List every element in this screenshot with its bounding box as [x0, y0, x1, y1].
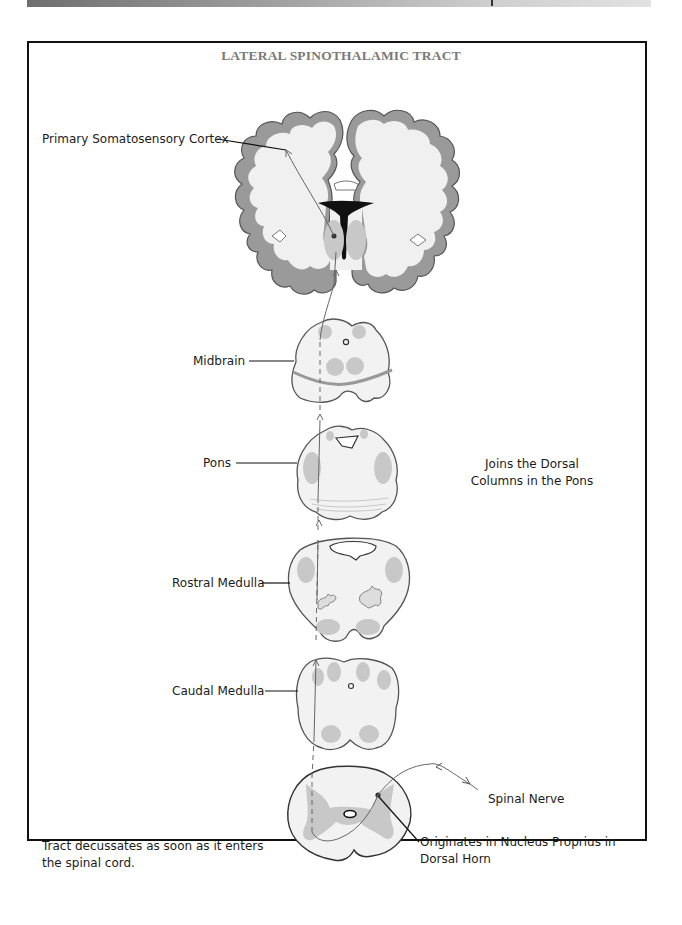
label-spinal-nerve: Spinal Nerve	[488, 792, 564, 807]
label-pons: Pons	[203, 456, 231, 471]
rostral-medulla-section	[288, 538, 409, 641]
cerebrum-section	[235, 110, 460, 294]
decussation-note-line-1: Tract decussates as soon as it enters	[42, 838, 264, 855]
pons-note: Joins the Dorsal Columns in the Pons	[464, 456, 600, 490]
spinal-cord-section	[288, 766, 411, 860]
origin-line-2: Dorsal Horn	[420, 851, 616, 868]
pons-note-line-1: Joins the Dorsal	[464, 456, 600, 473]
decussation-note: Tract decussates as soon as it enters th…	[42, 838, 264, 872]
pons-note-line-2: Columns in the Pons	[464, 473, 600, 490]
midbrain-section	[292, 319, 392, 402]
origin-line-1: Originates in Nucleus Proprius in	[420, 834, 616, 851]
label-primary-somatosensory-cortex: Primary Somatosensory Cortex	[42, 132, 229, 147]
label-caudal-medulla: Caudal Medulla	[172, 684, 264, 699]
pons-section	[297, 426, 397, 519]
caudal-medulla-section	[297, 658, 399, 749]
label-midbrain: Midbrain	[193, 354, 245, 369]
label-rostral-medulla: Rostral Medulla	[172, 576, 265, 591]
label-origin: Originates in Nucleus Proprius in Dorsal…	[420, 834, 616, 868]
decussation-note-line-2: the spinal cord.	[42, 855, 264, 872]
